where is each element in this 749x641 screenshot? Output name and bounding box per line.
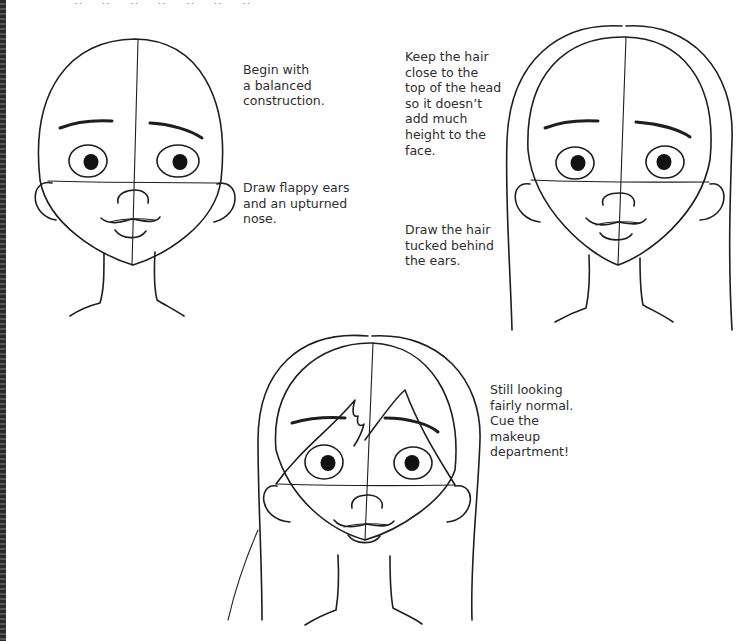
face-3 bbox=[228, 335, 480, 625]
caption-hair-close-to-head: Keep the hair close to the top of the he… bbox=[405, 49, 501, 158]
caption-still-normal: Still looking fairly normal. Cue the mak… bbox=[490, 382, 573, 460]
caption-ears-nose: Draw flappy ears and an upturned nose. bbox=[243, 180, 349, 227]
head-with-bangs-drawing bbox=[0, 0, 749, 641]
caption-hair-behind-ears: Draw the hair tucked behind the ears. bbox=[405, 222, 494, 269]
caption-begin-construction: Begin with a balanced construction. bbox=[243, 62, 325, 109]
